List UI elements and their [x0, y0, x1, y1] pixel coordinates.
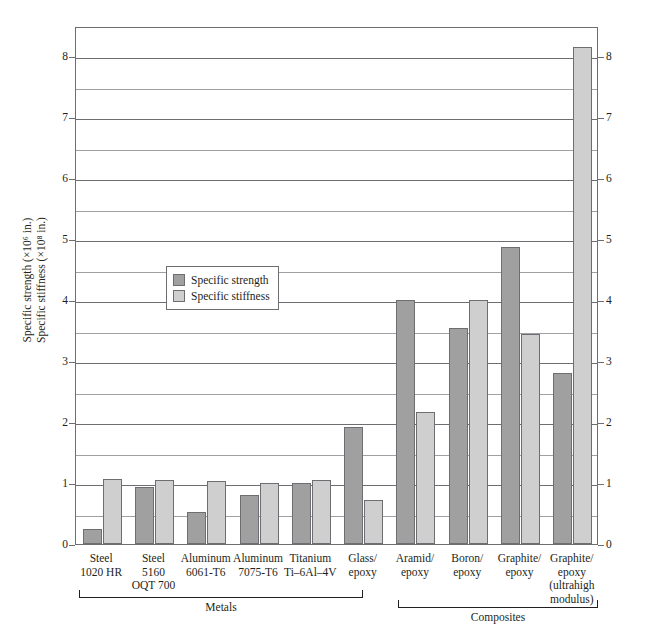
y-axis-tickmark-left: [69, 423, 75, 424]
y-axis-tickmark-right: [598, 484, 604, 485]
y-axis-title-line-2: Specific stiffness (×10⁸ in.): [34, 217, 48, 343]
gridline-major: [76, 119, 597, 120]
y-axis-tick-label-right: 6: [606, 173, 624, 185]
bar-specific-stiffness: [260, 483, 279, 544]
bar-specific-stiffness: [469, 300, 488, 544]
y-axis-tick-label-right: 4: [606, 295, 624, 307]
y-axis-tick-label-left: 4: [50, 295, 68, 307]
y-axis-tick-label-right: 5: [606, 234, 624, 246]
legend-swatch-icon-stiffness: [173, 290, 185, 302]
x-axis-category-label: Graphite/epoxy(ultrahighmodulus): [540, 552, 604, 606]
bar-specific-stiffness: [207, 481, 226, 544]
chart-legend: Specific strength Specific stiffness: [166, 266, 279, 310]
y-axis-tick-label-left: 2: [50, 417, 68, 429]
y-axis-tick-label-right: 3: [606, 356, 624, 368]
bar-specific-stiffness: [103, 479, 122, 544]
y-axis-tickmark-right: [598, 179, 604, 180]
y-axis-tick-label-right: 2: [606, 417, 624, 429]
y-axis-tickmark-right: [598, 118, 604, 119]
gridline-minor: [76, 150, 597, 151]
y-axis-tickmark-right: [598, 57, 604, 58]
x-axis-category-label-line: OQT 700: [121, 579, 185, 593]
bar-specific-strength: [187, 512, 206, 544]
bar-specific-strength: [83, 529, 102, 544]
y-axis-tickmark-right: [598, 362, 604, 363]
y-axis-tickmark-left: [69, 484, 75, 485]
gridline-major: [76, 241, 597, 242]
y-axis-tick-label-right: 7: [606, 112, 624, 124]
legend-item-specific-strength: Specific strength: [173, 272, 270, 288]
bar-specific-strength: [501, 247, 520, 544]
bar-specific-stiffness: [573, 47, 592, 544]
y-axis-title-line-1: Specific strength (×10⁶ in.): [20, 217, 34, 343]
legend-label-stiffness: Specific stiffness: [191, 288, 270, 304]
y-axis-tick-label-left: 5: [50, 234, 68, 246]
chart-figure: Specific strength (×10⁶ in.) Specific st…: [0, 0, 652, 638]
y-axis-tick-label-left: 6: [50, 173, 68, 185]
bar-specific-stiffness: [155, 480, 174, 544]
y-axis-tickmark-left: [69, 57, 75, 58]
y-axis-tickmark-right: [598, 423, 604, 424]
legend-swatch-icon-strength: [173, 274, 185, 286]
y-axis-tickmark-left: [69, 545, 75, 546]
y-axis-tickmark-left: [69, 240, 75, 241]
y-axis-tickmark-right: [598, 301, 604, 302]
y-axis-tick-label-right: 0: [606, 539, 624, 551]
y-axis-tickmark-right: [598, 240, 604, 241]
y-axis-tick-label-right: 1: [606, 478, 624, 490]
bar-specific-stiffness: [364, 500, 383, 544]
plot-area: [75, 27, 598, 545]
gridline-major: [76, 180, 597, 181]
x-axis-category-label-line: modulus): [540, 593, 604, 607]
bar-specific-strength: [553, 373, 572, 544]
bar-specific-strength: [292, 483, 311, 544]
y-axis-tickmark-right: [598, 545, 604, 546]
bar-specific-strength: [396, 300, 415, 544]
y-axis-title: Specific strength (×10⁶ in.) Specific st…: [14, 0, 54, 560]
bar-specific-stiffness: [312, 480, 331, 544]
y-axis-tick-label-left: 3: [50, 356, 68, 368]
group-label-metals: Metals: [79, 601, 363, 613]
y-axis-tickmark-left: [69, 179, 75, 180]
bar-specific-stiffness: [521, 334, 540, 544]
gridline-major: [76, 58, 597, 59]
x-axis-category-label-line: epoxy: [540, 566, 604, 580]
x-axis-category-label-line: Graphite/: [540, 552, 604, 566]
y-axis-tick-label-left: 8: [50, 51, 68, 63]
y-axis-tickmark-left: [69, 118, 75, 119]
y-axis-tick-label-left: 7: [50, 112, 68, 124]
bar-specific-strength: [344, 427, 363, 544]
y-axis-tickmark-left: [69, 362, 75, 363]
group-label-composites: Composites: [398, 611, 598, 623]
x-axis-category-label-line: (ultrahigh: [540, 579, 604, 593]
legend-label-strength: Specific strength: [191, 272, 269, 288]
y-axis-tick-label-right: 8: [606, 51, 624, 63]
gridline-minor: [76, 89, 597, 90]
bar-specific-strength: [449, 328, 468, 544]
bar-specific-strength: [135, 487, 154, 544]
gridline-minor: [76, 211, 597, 212]
y-axis-tickmark-left: [69, 301, 75, 302]
bar-specific-stiffness: [416, 412, 435, 544]
y-axis-tick-label-left: 0: [50, 539, 68, 551]
y-axis-tick-label-left: 1: [50, 478, 68, 490]
bar-specific-strength: [240, 495, 259, 544]
legend-item-specific-stiffness: Specific stiffness: [173, 288, 270, 304]
